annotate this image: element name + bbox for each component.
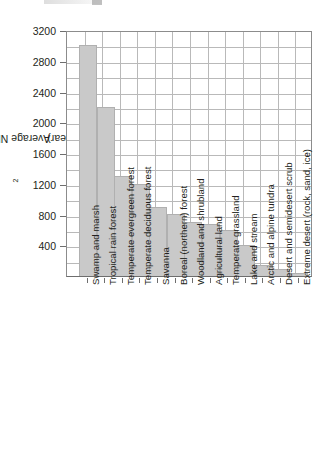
- x-axis-tick-mark: [262, 278, 263, 283]
- x-axis-category-label-text: Temperate evergreen forest: [126, 167, 136, 285]
- x-axis-tick-mark: [139, 278, 140, 283]
- y-axis-tick-label: 2400: [16, 88, 56, 98]
- x-axis-tick-mark: [104, 278, 105, 283]
- x-axis-tick-mark: [175, 278, 176, 283]
- y-axis-tick-label: 800: [16, 211, 56, 221]
- x-axis-category-label-text: Tropical rain forest: [108, 206, 118, 285]
- x-axis-tick-mark: [192, 278, 193, 283]
- y-axis-tick-label: 2800: [16, 57, 56, 67]
- x-axis-category-label-text: Desert and semidesert scrub: [284, 162, 294, 285]
- x-axis-category-label-text: Arctic and alpine tundra: [266, 184, 276, 285]
- x-axis-tick-mark: [210, 278, 211, 283]
- x-axis-tick-mark: [298, 278, 299, 283]
- x-axis-tick-mark: [157, 278, 158, 283]
- x-axis-category-label-text: Lake and stream: [249, 214, 259, 285]
- y-axis-title-suffix: /year): [0, 133, 75, 145]
- y-axis-tick-label: 2000: [16, 118, 56, 128]
- x-axis-tick-mark: [227, 278, 228, 283]
- x-axis-tick-mark: [87, 278, 88, 283]
- x-axis-category-label-text: Swamp and marsh: [91, 205, 101, 285]
- x-axis-category-label-text: Boreal (northern) forest: [179, 186, 189, 285]
- chart-figure: Average NPP (g/m2/year) 4008001200160020…: [0, 0, 328, 453]
- cropped-artifact-mark: [92, 0, 102, 5]
- x-axis-category-label-text: Extreme desert (rock, sand, ice): [302, 149, 312, 285]
- x-axis-category-label-text: Savanna: [161, 247, 171, 285]
- x-axis-category-label-text: Woodland and shrubland: [196, 178, 206, 285]
- x-axis-category-label-text: Temperate deciduous forest: [143, 167, 153, 285]
- x-axis-tick-mark: [122, 278, 123, 283]
- y-axis-tick-label: 400: [16, 241, 56, 251]
- y-axis-tick-label: 1600: [16, 149, 56, 159]
- y-axis-title: Average NPP (g/m2/year): [9, 0, 29, 278]
- x-axis-tick-mark: [245, 278, 246, 283]
- y-axis-tick-label: 3200: [16, 26, 56, 36]
- y-axis-tick-label: 1200: [16, 180, 56, 190]
- x-axis-category-label-text: Agricultural land: [214, 216, 224, 285]
- x-axis-tick-mark: [280, 278, 281, 283]
- x-axis-category-label-text: Temperate grassland: [231, 195, 241, 285]
